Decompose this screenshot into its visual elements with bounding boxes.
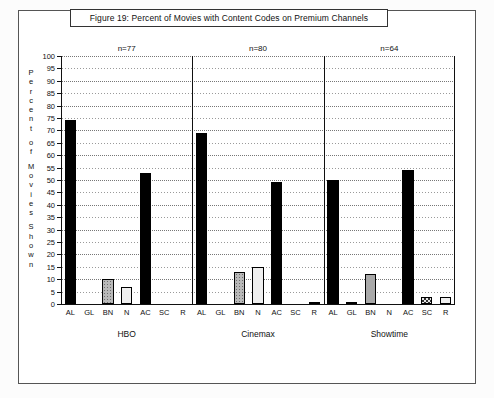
x-axis-tick-label: AL bbox=[197, 308, 206, 317]
bar bbox=[140, 173, 151, 304]
figure-page: Figure 19: Percent of Movies with Conten… bbox=[0, 0, 494, 398]
y-axis-tick bbox=[57, 230, 61, 231]
bar bbox=[121, 287, 132, 304]
bar bbox=[234, 272, 245, 304]
bar bbox=[365, 274, 376, 304]
group-n-label: n=77 bbox=[118, 44, 136, 53]
y-axis-tick-label: 80 bbox=[47, 101, 55, 110]
group-name-label: HBO bbox=[117, 329, 135, 339]
bar bbox=[102, 279, 113, 304]
y-axis-tick-label: 10 bbox=[47, 275, 55, 284]
y-axis-label-char: S bbox=[24, 222, 38, 231]
group-name-label: Cinemax bbox=[241, 329, 275, 339]
bar bbox=[252, 267, 263, 304]
x-axis-tick-label: N bbox=[124, 308, 129, 317]
y-axis-tick-label: 25 bbox=[47, 238, 55, 247]
group-separator bbox=[192, 56, 193, 304]
y-axis-tick-label: 65 bbox=[47, 138, 55, 147]
y-axis-tick-label: 0 bbox=[51, 300, 55, 309]
x-axis-tick-label: R bbox=[180, 308, 185, 317]
y-axis-label-char: i bbox=[24, 190, 38, 199]
bar bbox=[309, 302, 320, 304]
x-axis-tick-label: BN bbox=[365, 308, 375, 317]
x-axis-line bbox=[61, 304, 455, 305]
y-axis-tick-label: 55 bbox=[47, 163, 55, 172]
bar bbox=[346, 302, 357, 304]
y-axis-label-char: n bbox=[24, 260, 38, 269]
y-axis-tick-label: 75 bbox=[47, 114, 55, 123]
gridline bbox=[62, 56, 455, 57]
y-axis-tick-label: 30 bbox=[47, 225, 55, 234]
y-axis-tick bbox=[57, 205, 61, 206]
y-axis-label-char: f bbox=[24, 147, 38, 156]
y-axis-label: PercentofMoviesShown bbox=[24, 68, 38, 269]
x-axis-tick-label: GL bbox=[84, 308, 94, 317]
bar bbox=[65, 120, 76, 304]
x-axis-tick-label: R bbox=[312, 308, 317, 317]
gridline bbox=[62, 106, 455, 107]
bar bbox=[196, 133, 207, 304]
y-axis-tick-label: 90 bbox=[47, 76, 55, 85]
x-axis-tick-label: AC bbox=[272, 308, 282, 317]
y-axis-label-char: w bbox=[24, 250, 38, 259]
y-axis-label-char: c bbox=[24, 96, 38, 105]
y-axis-label-char: e bbox=[24, 199, 38, 208]
y-axis-tick bbox=[57, 242, 61, 243]
y-axis-label-char: e bbox=[24, 105, 38, 114]
x-axis-tick-label: GL bbox=[215, 308, 225, 317]
y-axis-label-char: e bbox=[24, 77, 38, 86]
gridline bbox=[62, 155, 455, 156]
group-n-label: n=64 bbox=[380, 44, 398, 53]
gridline bbox=[62, 242, 455, 243]
y-axis-label-char: r bbox=[24, 87, 38, 96]
group-n-label: n=80 bbox=[249, 44, 267, 53]
y-axis-tick bbox=[57, 118, 61, 119]
bar bbox=[421, 297, 432, 304]
bar bbox=[440, 297, 451, 304]
gridline bbox=[62, 68, 455, 69]
x-axis-tick-label: SC bbox=[290, 308, 300, 317]
y-axis-tick-label: 85 bbox=[47, 89, 55, 98]
y-axis-tick bbox=[57, 217, 61, 218]
y-axis-label-char: v bbox=[24, 180, 38, 189]
y-axis-label-char: M bbox=[24, 162, 38, 171]
y-axis-tick bbox=[57, 180, 61, 181]
y-axis-label-char: h bbox=[24, 232, 38, 241]
y-axis-tick-label: 50 bbox=[47, 176, 55, 185]
y-axis-tick-label: 20 bbox=[47, 250, 55, 259]
x-axis-tick-label: AL bbox=[328, 308, 337, 317]
y-axis-tick bbox=[57, 68, 61, 69]
y-axis-tick bbox=[57, 279, 61, 280]
y-axis-tick bbox=[57, 56, 61, 57]
group-name-label: Showtime bbox=[371, 329, 408, 339]
gridline bbox=[62, 118, 455, 119]
x-axis-tick-label: BN bbox=[103, 308, 113, 317]
x-axis-tick-label: AC bbox=[140, 308, 150, 317]
y-axis-tick bbox=[57, 254, 61, 255]
y-axis-label-char: o bbox=[24, 171, 38, 180]
y-axis-tick bbox=[57, 267, 61, 268]
y-axis-tick bbox=[57, 155, 61, 156]
y-axis-tick bbox=[57, 192, 61, 193]
y-axis-label-char: s bbox=[24, 208, 38, 217]
chart-plot-area: 0510152025303540455055606570758085909510… bbox=[61, 46, 455, 304]
gridline bbox=[62, 168, 455, 169]
gridline bbox=[62, 81, 455, 82]
y-axis-tick-label: 40 bbox=[47, 200, 55, 209]
y-axis-label-char: n bbox=[24, 114, 38, 123]
figure-title-box: Figure 19: Percent of Movies with Conten… bbox=[70, 9, 388, 27]
page-title: Figure 19: Percent of Movies with Conten… bbox=[90, 13, 368, 23]
x-axis-tick-label: N bbox=[255, 308, 260, 317]
y-axis-tick-label: 15 bbox=[47, 262, 55, 271]
y-axis-tick bbox=[57, 143, 61, 144]
plot-right-edge bbox=[454, 56, 455, 304]
x-axis-tick-label: GL bbox=[347, 308, 357, 317]
bar bbox=[402, 170, 413, 304]
y-axis-tick bbox=[57, 304, 61, 305]
bar bbox=[327, 180, 338, 304]
y-axis-tick-label: 5 bbox=[51, 287, 55, 296]
y-axis-tick-label: 60 bbox=[47, 151, 55, 160]
y-axis-tick bbox=[57, 168, 61, 169]
gridline bbox=[62, 217, 455, 218]
y-axis-label-char: t bbox=[24, 124, 38, 133]
